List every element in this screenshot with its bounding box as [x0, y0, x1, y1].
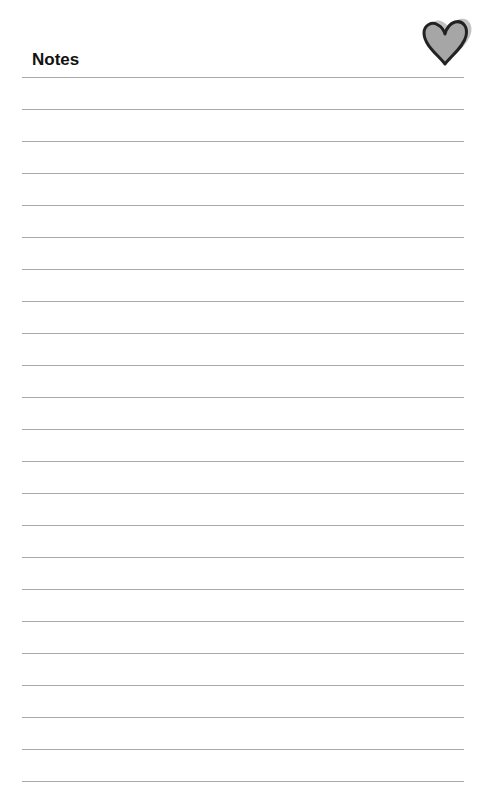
ruled-line	[22, 589, 464, 590]
ruled-line	[22, 141, 464, 142]
ruled-line	[22, 77, 464, 78]
ruled-line	[22, 621, 464, 622]
page-title: Notes	[32, 50, 79, 70]
ruled-line	[22, 173, 464, 174]
ruled-line	[22, 429, 464, 430]
ruled-line	[22, 685, 464, 686]
ruled-line	[22, 397, 464, 398]
ruled-line	[22, 525, 464, 526]
ruled-line	[22, 557, 464, 558]
ruled-line	[22, 493, 464, 494]
ruled-line	[22, 365, 464, 366]
ruled-line	[22, 269, 464, 270]
ruled-line	[22, 717, 464, 718]
ruled-line	[22, 749, 464, 750]
heart-icon	[420, 16, 472, 68]
ruled-line	[22, 109, 464, 110]
ruled-line	[22, 237, 464, 238]
ruled-line	[22, 781, 464, 782]
ruled-line	[22, 301, 464, 302]
ruled-line	[22, 653, 464, 654]
ruled-line	[22, 461, 464, 462]
ruled-line	[22, 333, 464, 334]
ruled-line	[22, 205, 464, 206]
